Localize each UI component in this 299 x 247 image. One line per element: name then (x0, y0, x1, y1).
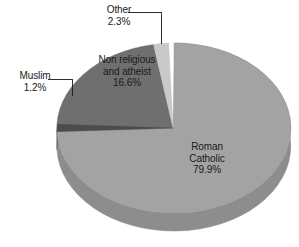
pie-chart-figure: Roman Catholic 79.9% Non religious and a… (0, 0, 299, 247)
slice-label-muslim: Muslim 1.2% (8, 70, 62, 93)
slice-label-non-religious: Non religious and atheist 16.6% (86, 54, 168, 89)
slice-label-other-line1: Other (96, 4, 142, 16)
slice-label-roman-catholic: Roman Catholic 79.9% (170, 141, 244, 176)
slice-label-non-religious-value: 16.6% (86, 77, 168, 89)
slice-label-non-religious-line1: Non religious (86, 54, 168, 66)
slice-label-muslim-line1: Muslim (8, 70, 62, 82)
pie-chart-graphic (0, 0, 299, 247)
slice-label-other-value: 2.3% (96, 16, 142, 28)
slice-label-roman-catholic-line2: Catholic (170, 153, 244, 165)
slice-label-muslim-value: 1.2% (8, 82, 62, 94)
slice-label-roman-catholic-line1: Roman (170, 141, 244, 153)
slice-label-non-religious-line2: and atheist (86, 66, 168, 78)
slice-label-roman-catholic-value: 79.9% (170, 164, 244, 176)
slice-label-other: Other 2.3% (96, 4, 142, 27)
